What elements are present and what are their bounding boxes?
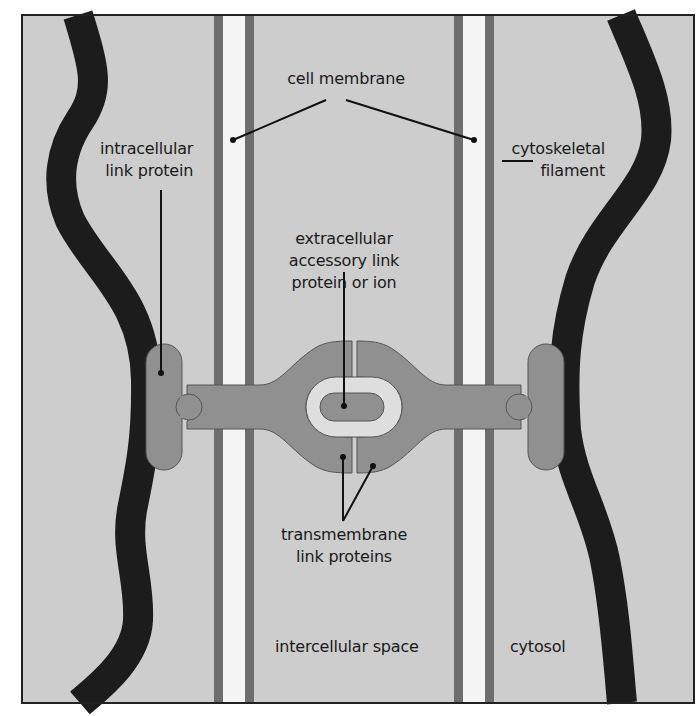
label-line: accessory link [274, 250, 414, 272]
label-line: transmembrane [274, 524, 414, 546]
label-line: cytoskeletal [501, 138, 605, 160]
label-line: protein or ion [274, 272, 414, 294]
label-cytoskeletal-filament: cytoskeletal filament [505, 138, 605, 182]
label-line: extracellular [274, 228, 414, 250]
label-extracellular-accessory-protein: extracellular accessory link protein or … [274, 228, 414, 294]
right-intracellular-link-protein [528, 344, 564, 470]
label-cell-membrane: cell membrane [280, 68, 412, 90]
right-cell-membrane [454, 15, 494, 703]
label-line: link proteins [274, 546, 414, 568]
label-cytosol: cytosol [510, 636, 566, 658]
label-line: filament [505, 160, 605, 182]
junction-diagram [0, 0, 698, 716]
label-intercellular-space: intercellular space [275, 636, 419, 658]
left-cell-membrane [214, 15, 254, 703]
label-intracellular-link-protein: intracellular link protein [100, 138, 193, 182]
label-line: intracellular [100, 138, 193, 160]
label-transmembrane-link-proteins: transmembrane link proteins [274, 524, 414, 568]
extracellular-accessory-protein [320, 393, 384, 421]
label-line: link protein [100, 160, 193, 182]
